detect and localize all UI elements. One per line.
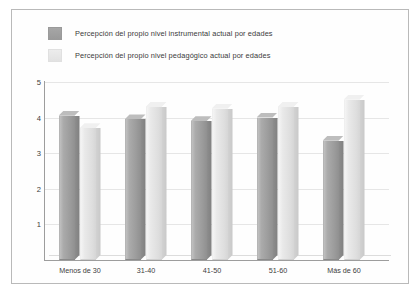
bar-pedagogico [146, 107, 162, 260]
bar-instrumental [59, 116, 75, 260]
bar-instrumental [191, 121, 207, 260]
bar-front-face [80, 128, 96, 260]
bar-pedagogico [80, 128, 96, 260]
x-axis-tick-label: Menos de 30 [59, 266, 101, 275]
y-axis-tick-label: 5 [25, 78, 41, 87]
bar-instrumental [323, 141, 339, 260]
bar-front-face [191, 121, 207, 260]
bar-front-face [278, 107, 294, 260]
plot-area: 12345 Menos de 3031-4041-5051-60Más de 6… [11, 9, 409, 284]
bar-front-face [59, 116, 75, 260]
bar-side-face [228, 109, 233, 260]
x-axis-tick-label: Más de 60 [327, 266, 361, 275]
bar-pedagogico [212, 109, 228, 260]
x-axis-tick-label: 51-60 [269, 266, 287, 275]
bar-front-face [257, 118, 273, 260]
bar-pedagogico [278, 107, 294, 260]
y-axis-tick-label: 2 [25, 184, 41, 193]
bar-side-face [294, 107, 299, 260]
bar-front-face [212, 109, 228, 260]
y-axis-tick-label: 4 [25, 113, 41, 122]
bar-pedagogico [344, 100, 360, 260]
chart-page: Percepción del propio nivel instrumental… [0, 0, 420, 300]
x-axis-tick-label: 31-40 [137, 266, 155, 275]
bar-side-face [360, 100, 365, 260]
bar-front-face [323, 141, 339, 260]
x-axis-line [44, 260, 389, 261]
x-axis-tick-label: 41-50 [203, 266, 221, 275]
y-axis-tick-label: 1 [25, 220, 41, 229]
bar-instrumental [125, 119, 141, 260]
bar-front-face [125, 119, 141, 260]
bar-side-face [96, 128, 101, 260]
bar-front-face [344, 100, 360, 260]
bar-front-face [146, 107, 162, 260]
y-axis-tick-label: 3 [25, 149, 41, 158]
gridline [45, 82, 389, 83]
y-axis-line [44, 81, 45, 261]
bar-instrumental [257, 118, 273, 260]
bar-side-face [162, 107, 167, 260]
